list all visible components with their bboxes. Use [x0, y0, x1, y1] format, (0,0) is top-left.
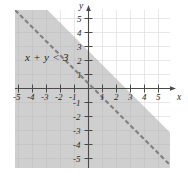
x-tick-label-4: 4	[142, 93, 147, 102]
y-tick-label-2: 2	[77, 57, 82, 66]
y-tick-label-4: 4	[77, 29, 82, 38]
inequality-annotation: x + y < 3	[25, 52, 69, 63]
x-axis-label: x	[177, 93, 181, 103]
coordinate-plane	[0, 0, 188, 177]
x-tick-label--5: -5	[13, 93, 21, 102]
y-tick-label--5: -5	[73, 155, 81, 164]
y-axis-label: y	[79, 2, 83, 12]
x-tick-label-1: 1	[100, 93, 105, 102]
x-tick-label--2: -2	[55, 93, 63, 102]
y-tick-label-5: 5	[77, 15, 82, 24]
y-tick-label--3: -3	[73, 127, 81, 136]
x-tick-label--4: -4	[27, 93, 35, 102]
y-tick-label-1: 1	[77, 71, 82, 80]
y-tick-label--1: -1	[73, 99, 81, 108]
x-tick-label-3: 3	[128, 93, 133, 102]
graph-figure: -5 -4 -3 -2 -1 1 2 3 4 5 5 4 3 2 1 -1 -2…	[0, 0, 188, 177]
x-tick-label--3: -3	[41, 93, 49, 102]
y-tick-label-3: 3	[77, 43, 82, 52]
x-tick-label-2: 2	[114, 93, 119, 102]
x-tick-label-5: 5	[156, 93, 161, 102]
y-tick-label--2: -2	[73, 113, 81, 122]
y-tick-label--4: -4	[73, 141, 81, 150]
